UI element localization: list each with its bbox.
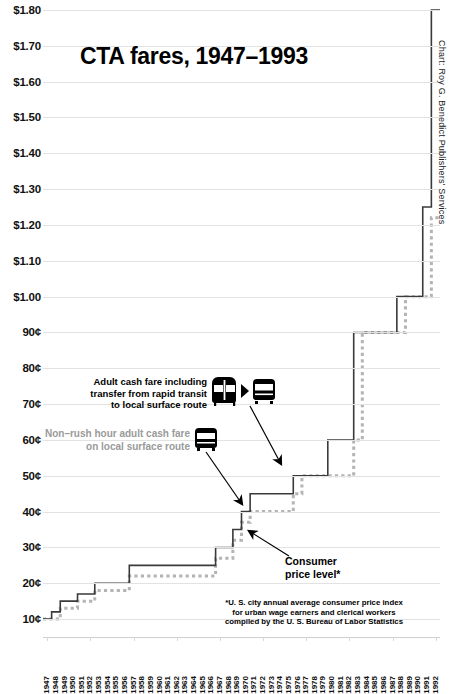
y-axis-tick-label: 30¢ — [1, 541, 41, 553]
x-axis-tick-label: 1983 — [354, 676, 362, 694]
chart-page: 10¢20¢30¢40¢50¢60¢70¢80¢90¢$1.00$1.10$1.… — [0, 0, 457, 694]
bus-icon — [253, 379, 275, 404]
y-axis-tick-label: 20¢ — [1, 577, 41, 589]
y-axis-tick-label: 60¢ — [1, 434, 41, 446]
annotation-nonrush-line-2: on local surface route — [40, 441, 190, 454]
annotation-cpi-line-1: Consumer — [285, 555, 395, 568]
x-axis-tick-label: 1967 — [216, 676, 224, 694]
footnote: *U. S. city annual average consumer pric… — [194, 598, 434, 627]
footnote-line-1: *U. S. city annual average consumer pric… — [194, 598, 434, 608]
gridline — [43, 117, 440, 118]
footnote-line-2: for urban wage earners and clerical work… — [194, 608, 434, 618]
plot-area — [43, 10, 440, 637]
x-axis-tick-label: 1948 — [52, 676, 60, 694]
x-axis-tick-label: 1959 — [147, 676, 155, 694]
gridline — [43, 261, 440, 262]
x-axis-tick-label: 1972 — [259, 676, 267, 694]
gridline — [43, 10, 440, 11]
transfer-icons-svg — [210, 376, 276, 406]
x-axis-tick-label: 1969 — [233, 676, 241, 694]
y-axis-tick-label: $1.10 — [1, 255, 41, 267]
y-axis-tick-label: $1.00 — [1, 291, 41, 303]
footnote-line-3: compiled by the U. S. Bureau of Labor St… — [194, 617, 434, 627]
gridline — [43, 368, 440, 369]
bus-icon — [195, 428, 217, 451]
gridline — [43, 225, 440, 226]
y-axis-tick-label: $1.60 — [1, 76, 41, 88]
x-axis-labels: 1947194819491950195119521953195419551956… — [43, 640, 443, 694]
gridline — [43, 297, 440, 298]
series-layer — [43, 10, 440, 637]
annotation-consumer-price-level: Consumer price level* — [285, 555, 395, 580]
annotation-transfer-line-2: transfer from rapid transit — [82, 388, 207, 400]
y-axis-tick-label: $1.80 — [1, 4, 41, 16]
x-axis-tick-label: 1988 — [397, 676, 405, 694]
annotation-transfer-line-1: Adult cash fare including — [82, 376, 207, 388]
nonrush-icon-group — [192, 426, 222, 450]
y-axis-tick-label: 70¢ — [1, 398, 41, 410]
x-axis-tick-label: 1980 — [328, 676, 336, 694]
x-axis-line — [43, 637, 440, 638]
x-axis-tick-label: 1992 — [432, 676, 440, 694]
annotation-nonrush-line-1: Non–rush hour adult cash fare — [40, 428, 190, 441]
y-axis-labels: 10¢20¢30¢40¢50¢60¢70¢80¢90¢$1.00$1.10$1.… — [0, 10, 41, 637]
chart-credit: Chart: Roy G. Benedict Publishers' Servi… — [437, 40, 447, 224]
right-arrow-icon — [241, 384, 249, 398]
gridline — [43, 189, 440, 190]
x-axis-tick-label: 1953 — [95, 676, 103, 694]
x-axis-tick-label: 1964 — [190, 676, 198, 694]
y-axis-tick-label: 10¢ — [1, 613, 41, 625]
x-axis-tick-label: 1991 — [423, 676, 431, 694]
nonrush-bus-svg — [192, 426, 222, 452]
gridline — [43, 476, 440, 477]
annotation-transfer-fare: Adult cash fare including transfer from … — [82, 376, 207, 411]
annotation-cpi-line-2: price level* — [285, 568, 395, 581]
gridline — [43, 512, 440, 513]
y-axis-tick-label: 50¢ — [1, 470, 41, 482]
annotation-transfer-line-3: to local surface route — [82, 399, 207, 411]
y-axis-tick-label: $1.70 — [1, 40, 41, 52]
page-title: CTA fares, 1947–1993 — [80, 43, 308, 70]
transfer-icon-group — [210, 376, 276, 406]
fare-line — [43, 10, 440, 619]
y-axis-tick-label: $1.30 — [1, 183, 41, 195]
y-axis-tick-label: 40¢ — [1, 506, 41, 518]
x-axis-tick-label: 1975 — [285, 676, 293, 694]
annotation-nonrush-fare: Non–rush hour adult cash fare on local s… — [40, 428, 190, 453]
y-axis-tick-label: 80¢ — [1, 362, 41, 374]
y-axis-tick-label: $1.50 — [1, 111, 41, 123]
gridline — [43, 153, 440, 154]
y-axis-tick-label: 90¢ — [1, 326, 41, 338]
train-icon — [212, 377, 236, 406]
gridline — [43, 332, 440, 333]
x-axis-tick-label: 1956 — [121, 676, 129, 694]
y-axis-tick-label: $1.40 — [1, 147, 41, 159]
x-axis-tick-label: 1950 — [69, 676, 77, 694]
gridline — [43, 82, 440, 83]
gridline — [43, 583, 440, 584]
x-axis-tick-label: 1986 — [380, 676, 388, 694]
y-axis-tick-label: $1.20 — [1, 219, 41, 231]
x-axis-tick-label: 1961 — [164, 676, 172, 694]
gridline — [43, 547, 440, 548]
